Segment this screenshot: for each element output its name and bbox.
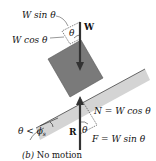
theta-bottom-label: θ xyxy=(82,125,88,135)
incline-angle-label: θ < ϕs xyxy=(18,126,46,137)
w-sin-label: W sin θ xyxy=(22,10,56,20)
r-theta-arc xyxy=(80,122,88,124)
theta-top-label: θ xyxy=(69,28,75,38)
caption: (b) No motion xyxy=(22,150,82,160)
r-label: R xyxy=(69,127,77,137)
block xyxy=(48,40,103,97)
w-sin-leader xyxy=(56,16,68,26)
friction-force-label: F = W sin θ xyxy=(91,134,146,144)
w-cos-leader xyxy=(50,37,64,38)
w-cos-label: W cos θ xyxy=(12,35,48,45)
normal-force-label: N = W cos θ xyxy=(93,106,151,116)
no-motion-diagram: W sin θ W θ W cos θ N = W cos θ R θ F = … xyxy=(0,0,156,161)
w-label: W xyxy=(83,22,95,32)
